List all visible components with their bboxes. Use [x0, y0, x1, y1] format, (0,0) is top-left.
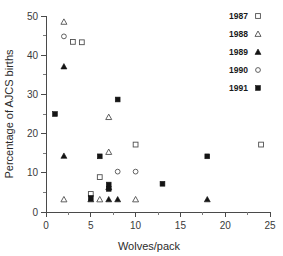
legend: 19871988198919901991 [229, 11, 261, 93]
y-axis: 01020304050 [27, 11, 46, 218]
point-marker [204, 196, 210, 201]
y-axis-title: Percentage of AJCS births [3, 49, 15, 179]
legend-marker-1991 [256, 86, 261, 91]
point-marker [70, 39, 75, 44]
point-marker [106, 186, 111, 191]
point-marker [106, 114, 112, 119]
point-marker [106, 149, 112, 154]
series-1991 [53, 97, 210, 200]
point-marker [61, 196, 67, 201]
x-tick-label: 15 [175, 220, 187, 231]
legend-label-1990: 1990 [229, 65, 248, 75]
point-marker [259, 142, 264, 147]
y-tick-label: 20 [27, 128, 39, 139]
legend-label-1988: 1988 [229, 29, 248, 39]
point-marker [53, 112, 58, 117]
y-tick-label: 30 [27, 89, 39, 100]
series-1987 [70, 39, 263, 196]
legend-marker-1989 [255, 49, 261, 54]
point-marker [205, 154, 210, 159]
point-marker [61, 153, 67, 158]
scatter-chart: 01020304050 0510152025 19871988198919901… [0, 0, 283, 256]
point-marker [160, 181, 165, 186]
y-tick-label: 0 [32, 207, 38, 218]
legend-label-1989: 1989 [229, 47, 248, 57]
point-marker [106, 196, 112, 201]
point-marker [88, 195, 93, 200]
point-marker [61, 19, 67, 24]
point-marker [115, 169, 120, 174]
point-marker [115, 196, 121, 201]
legend-label-1987: 1987 [229, 11, 248, 21]
legend-label-1991: 1991 [229, 83, 248, 93]
point-marker [79, 40, 84, 45]
y-tick-label: 50 [27, 11, 39, 22]
series-1990 [62, 34, 138, 174]
point-marker [115, 97, 120, 102]
x-axis-title: Wolves/pack [118, 240, 181, 252]
point-marker [133, 169, 138, 174]
x-tick-label: 25 [264, 220, 276, 231]
legend-marker-1988 [255, 31, 261, 36]
series-1989 [61, 64, 210, 202]
x-tick-label: 20 [220, 220, 232, 231]
x-axis: 0510152025 [43, 212, 276, 231]
x-tick-label: 0 [43, 220, 49, 231]
point-marker [61, 64, 67, 69]
plot-canvas: 01020304050 0510152025 19871988198919901… [0, 0, 283, 256]
point-marker [133, 142, 138, 147]
x-tick-label: 10 [130, 220, 142, 231]
legend-marker-1990 [256, 68, 261, 73]
point-marker [97, 175, 102, 180]
legend-marker-1987 [256, 14, 261, 19]
point-marker [97, 154, 102, 159]
y-tick-label: 10 [27, 167, 39, 178]
point-marker [97, 196, 103, 201]
y-tick-label: 40 [27, 50, 39, 61]
point-marker [62, 34, 67, 39]
x-tick-label: 5 [88, 220, 94, 231]
point-marker [133, 196, 139, 201]
